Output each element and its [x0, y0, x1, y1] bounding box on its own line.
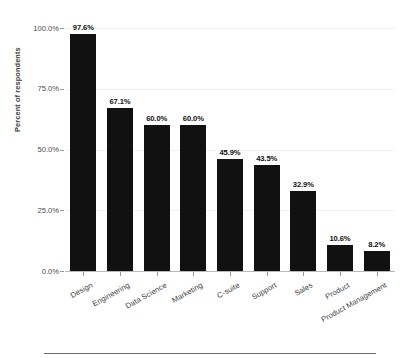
bar[interactable]: [144, 125, 170, 271]
y-tick-mark: [60, 150, 64, 151]
y-tick-mark: [60, 210, 64, 211]
x-tick-mark: [267, 272, 268, 276]
x-tick-mark: [230, 272, 231, 276]
y-tick-label: 100.0%: [13, 24, 59, 33]
bar[interactable]: [217, 159, 243, 271]
x-tick-mark: [303, 272, 304, 276]
bar-value-label: 60.0%: [171, 114, 215, 123]
bar-value-label: 32.9%: [281, 180, 325, 189]
y-tick-mark: [60, 271, 64, 272]
y-axis-title: Percent of respondents: [13, 2, 22, 132]
bar-value-label: 97.6%: [61, 23, 105, 32]
y-tick-label: 0.0%: [13, 267, 59, 276]
bar-value-label: 8.2%: [355, 240, 399, 249]
y-tick-label: 50.0%: [13, 145, 59, 154]
bar-value-label: 43.5%: [245, 154, 289, 163]
footer-rule: [44, 353, 376, 354]
x-tick-mark: [157, 272, 158, 276]
y-tick-label: 25.0%: [13, 206, 59, 215]
x-tick-mark: [83, 272, 84, 276]
x-tick-mark: [377, 272, 378, 276]
bar[interactable]: [254, 165, 280, 271]
x-tick-mark: [340, 272, 341, 276]
gridline: [65, 28, 395, 29]
bar[interactable]: [180, 125, 206, 271]
y-tick-mark: [60, 89, 64, 90]
x-tick-mark: [120, 272, 121, 276]
bar[interactable]: [364, 251, 390, 271]
bar-value-label: 67.1%: [98, 97, 142, 106]
bar-chart: Percent of respondents 0.0%25.0%50.0%75.…: [0, 0, 420, 358]
y-tick-label: 75.0%: [13, 84, 59, 93]
bar[interactable]: [327, 245, 353, 271]
bar[interactable]: [290, 191, 316, 271]
bar[interactable]: [70, 34, 96, 271]
bar[interactable]: [107, 108, 133, 271]
x-tick-mark: [193, 272, 194, 276]
gridline: [65, 89, 395, 90]
